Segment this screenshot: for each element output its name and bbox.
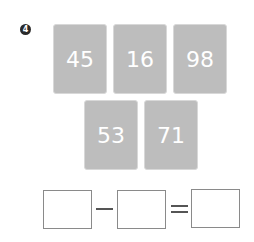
problem-number-badge: 4 [20, 24, 31, 35]
answer-box-subtrahend[interactable] [117, 190, 166, 229]
minus-sign-icon [96, 208, 113, 210]
number-card[interactable]: 45 [53, 24, 107, 94]
number-card[interactable]: 71 [144, 100, 198, 170]
answer-box-result[interactable] [191, 189, 240, 228]
number-card[interactable]: 53 [84, 100, 138, 170]
equals-sign-icon [171, 205, 188, 207]
equals-sign-icon [171, 211, 188, 213]
number-card[interactable]: 98 [173, 24, 227, 94]
answer-box-minuend[interactable] [43, 190, 92, 229]
number-card[interactable]: 16 [113, 24, 167, 94]
